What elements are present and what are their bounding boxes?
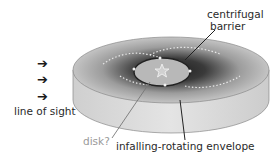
centrifugal-barrier-label-2: barrier [210,21,245,33]
line-of-sight-label: line of sight [14,106,76,118]
line-of-sight-arrow-3: ➔ [37,89,48,104]
envelope-label: infalling-rotating envelope [116,141,255,153]
line-of-sight-arrow-1: ➔ [37,56,48,71]
disk-label: disk? [83,136,110,148]
line-of-sight-arrow-2: ➔ [37,72,48,87]
centrifugal-barrier-label-1: centrifugal [207,9,264,21]
